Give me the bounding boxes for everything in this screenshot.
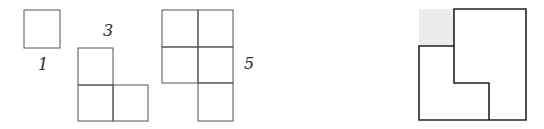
shape-1-label: 1 xyxy=(38,55,48,74)
shape-5-label: 5 xyxy=(244,54,254,73)
inner-divider xyxy=(454,46,489,120)
shape-5-pentomino xyxy=(162,10,233,121)
composite-figure xyxy=(419,9,526,120)
shape-3-label: 3 xyxy=(103,21,113,40)
shaded-corner xyxy=(419,9,454,46)
figure-canvas: 1 3 5 xyxy=(0,0,544,129)
shape-3-l-tromino xyxy=(78,48,148,121)
shape-1-square xyxy=(24,10,60,48)
